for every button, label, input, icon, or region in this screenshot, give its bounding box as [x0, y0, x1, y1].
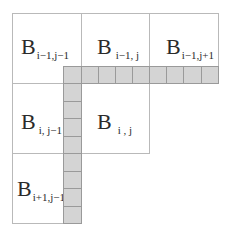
strip-cell — [63, 153, 82, 172]
block-label-subscript: i, j−1 — [39, 124, 62, 136]
block-label-base: B — [21, 109, 36, 134]
strip-cell — [63, 101, 82, 119]
strip-cell — [63, 136, 82, 154]
strip-cell — [81, 66, 99, 84]
block-label-subscript: i , j — [118, 124, 132, 136]
block-label-base: B — [97, 109, 112, 134]
block-label-subscript: i−1, j — [116, 49, 139, 61]
strip-cell — [63, 66, 82, 84]
strip-cell — [201, 66, 219, 84]
strip-cell — [98, 66, 116, 84]
strip-cell — [63, 118, 82, 137]
strip-cell — [63, 83, 82, 102]
block-label-base: B — [21, 34, 36, 59]
strip-cell — [63, 188, 82, 207]
strip-cell — [63, 206, 82, 224]
block-label-subscript: i−1,j−1 — [37, 49, 69, 61]
strip-cell — [183, 66, 202, 84]
strip-cell — [149, 66, 167, 84]
strip-cell — [132, 66, 150, 84]
block-i-j: Bi , j — [81, 83, 150, 154]
block-label-base: B — [97, 34, 112, 59]
block-label-base: B — [17, 176, 32, 201]
block-label-subscript: i−1,j+1 — [182, 49, 214, 61]
strip-cell — [115, 66, 133, 84]
block-label-subscript: i+1,j−1 — [33, 191, 65, 203]
strip-cell — [166, 66, 184, 84]
block-label-base: B — [166, 34, 181, 59]
strip-cell — [63, 171, 82, 189]
